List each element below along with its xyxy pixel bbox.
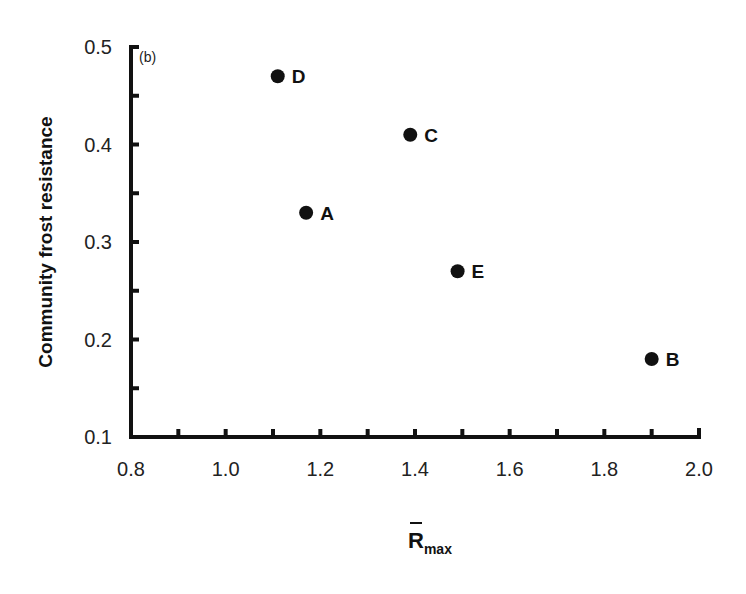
x-tick-label: 1.4 — [401, 458, 429, 480]
axis-lines — [131, 47, 699, 437]
y-tick-label: 0.3 — [84, 231, 112, 253]
overbar — [410, 522, 422, 524]
y-tick-label: 0.5 — [84, 36, 112, 58]
panel-label: (b) — [139, 49, 156, 65]
point-marker — [451, 264, 465, 278]
point-label: B — [666, 349, 680, 370]
x-tick-label: 1.6 — [496, 458, 524, 480]
scatter-chart: 0.81.01.21.41.61.82.00.10.20.30.40.5 ABC… — [0, 0, 746, 594]
point-label: C — [424, 125, 438, 146]
data-point-c: C — [403, 125, 438, 146]
x-tick-label: 2.0 — [685, 458, 713, 480]
point-marker — [403, 128, 417, 142]
point-marker — [271, 69, 285, 83]
point-label: D — [292, 66, 306, 87]
data-point-e: E — [451, 261, 485, 282]
x-tick-label: 1.0 — [212, 458, 240, 480]
x-tick-label: 1.8 — [590, 458, 618, 480]
data-point-a: A — [299, 203, 334, 224]
point-marker — [645, 352, 659, 366]
x-axis-label-base: R — [408, 528, 424, 553]
x-axis-label-subscript: max — [424, 541, 452, 557]
y-tick-label: 0.4 — [84, 134, 112, 156]
axis-ticks — [131, 96, 652, 437]
x-tick-label: 0.8 — [117, 458, 145, 480]
y-tick-label: 0.1 — [84, 426, 112, 448]
point-label: A — [320, 203, 334, 224]
point-marker — [299, 206, 313, 220]
data-point-b: B — [645, 349, 680, 370]
y-axis-label: Community frost resistance — [35, 116, 56, 367]
y-tick-label: 0.2 — [84, 329, 112, 351]
point-label: E — [472, 261, 485, 282]
x-axis-label: Rmax — [408, 528, 452, 557]
data-points: ABCDE — [271, 66, 680, 370]
tick-labels: 0.81.01.21.41.61.82.00.10.20.30.40.5 — [84, 36, 713, 480]
axes — [129, 47, 699, 437]
data-point-d: D — [271, 66, 306, 87]
x-tick-label: 1.2 — [306, 458, 334, 480]
